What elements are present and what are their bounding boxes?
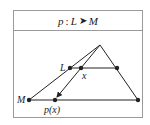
label-px: p(x) bbox=[43, 104, 61, 116]
right-side-line bbox=[100, 45, 138, 100]
label-L: L bbox=[59, 62, 66, 73]
projection-diagram: L x M p(x) bbox=[0, 0, 150, 125]
point-px bbox=[53, 98, 57, 102]
point-M-left bbox=[27, 98, 31, 102]
label-M: M bbox=[16, 94, 26, 105]
label-x: x bbox=[81, 70, 87, 81]
point-L-left bbox=[68, 66, 72, 70]
point-L-right bbox=[115, 66, 119, 70]
point-M-right bbox=[136, 98, 140, 102]
